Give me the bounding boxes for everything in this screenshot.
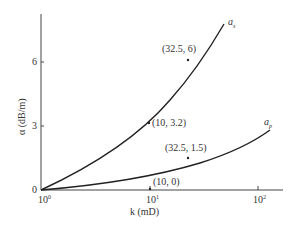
point-32.5-1.5 <box>187 157 189 159</box>
annotation-32.5-6: (32.5, 6) <box>162 44 196 54</box>
annotation-32.5-1.5: (32.5, 1.5) <box>165 143 207 153</box>
x-tick-label-10-1: 101 <box>146 194 159 205</box>
x-tick-0-base: 10 <box>38 194 48 205</box>
chart-canvas <box>0 0 294 225</box>
annotation-10-3.2: (10, 3.2) <box>152 118 186 128</box>
x-tick-1-base: 10 <box>146 194 156 205</box>
x-axis-label: k (mD) <box>130 207 159 217</box>
y-tick-label-3: 3 <box>25 121 37 131</box>
x-tick-2-exp: 2 <box>263 194 266 200</box>
curve-p-sub: p <box>269 123 272 129</box>
point-10-0 <box>149 188 151 190</box>
point-32.5-6 <box>187 59 189 61</box>
point-10-3.2 <box>148 122 150 124</box>
curve-label-a-s: as <box>228 17 235 29</box>
y-tick-label-0: 0 <box>25 185 37 195</box>
x-tick-2-base: 10 <box>253 194 263 205</box>
annotation-10-0: (10, 0) <box>153 177 180 187</box>
curve-a-s <box>41 24 224 190</box>
y-tick-label-6: 6 <box>25 57 37 67</box>
x-tick-1-exp: 1 <box>156 194 159 200</box>
x-tick-label-10-2: 102 <box>253 194 266 205</box>
curve-s-sub: s <box>233 23 235 29</box>
x-tick-0-exp: 0 <box>48 194 51 200</box>
x-tick-label-10-0: 100 <box>38 194 51 205</box>
curve-label-a-p: ap <box>264 117 272 129</box>
